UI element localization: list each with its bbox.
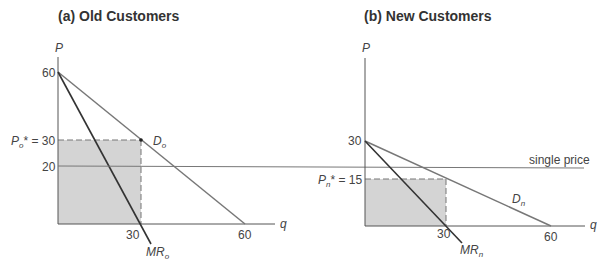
mr-label-old: MRo: [146, 245, 170, 261]
y-tick-20: 20: [42, 160, 56, 174]
panel-title-old: (a) Old Customers: [58, 8, 180, 24]
panel-old-customers: (a) Old Customers P 60 20 Po* = 30 30 60…: [11, 8, 287, 261]
x-tick-60-left: 60: [238, 228, 252, 242]
panel-new-customers: (b) New Customers P 30 Pn* = 15 30 60 q …: [318, 8, 597, 259]
x-tick-60-right: 60: [544, 230, 558, 244]
x-tick-30-left: 30: [126, 228, 140, 242]
revenue-area-new: [365, 179, 446, 226]
y-tick-60: 60: [42, 66, 56, 80]
y-axis-label-right: P: [362, 41, 370, 55]
x-axis-label-left: q: [280, 217, 287, 231]
price-label-new: Pn* = 15: [318, 173, 362, 189]
mr-label-new: MRn: [460, 243, 484, 259]
revenue-area-old: [58, 140, 141, 224]
price-label-old: Po* = 30: [11, 134, 55, 150]
y-axis-label-left: P: [55, 41, 63, 55]
price-discrimination-chart: (a) Old Customers P 60 20 Po* = 30 30 60…: [0, 0, 605, 264]
demand-label-new: Dn: [512, 192, 526, 208]
single-price-label: single price: [529, 153, 590, 167]
x-axis-label-right: q: [590, 218, 597, 232]
x-tick-30-right: 30: [437, 227, 451, 241]
panel-title-new: (b) New Customers: [364, 8, 492, 24]
demand-label-old: Do: [153, 134, 167, 150]
optimal-point-old: [139, 138, 143, 142]
y-tick-30-right: 30: [348, 134, 362, 148]
